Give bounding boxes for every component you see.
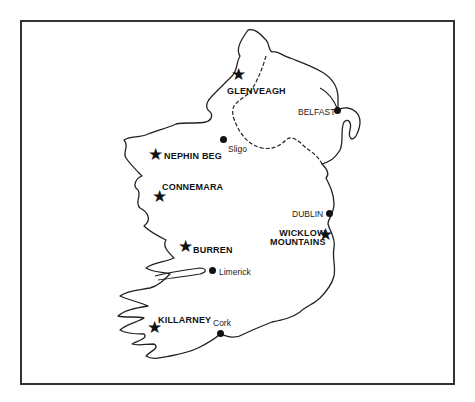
dot-icon-cork bbox=[217, 330, 224, 337]
park-label-burren: BURREN bbox=[193, 246, 233, 255]
ireland-outline bbox=[0, 0, 475, 402]
dot-icon-limerick bbox=[209, 267, 216, 274]
star-icon-wicklow: ★ bbox=[318, 226, 333, 243]
city-label-belfast: BELFAST bbox=[298, 108, 335, 117]
park-label-nephin-beg: NEPHIN BEG bbox=[164, 152, 222, 161]
star-icon-connemara: ★ bbox=[152, 188, 167, 205]
dot-icon-sligo bbox=[220, 136, 227, 143]
star-icon-glenveagh: ★ bbox=[231, 66, 246, 83]
park-label-killarney: KILLARNEY bbox=[158, 316, 211, 325]
star-icon-nephin-beg: ★ bbox=[148, 146, 163, 163]
city-label-sligo: Sligo bbox=[228, 145, 247, 154]
city-label-dublin: DUBLIN bbox=[292, 210, 323, 219]
city-label-limerick: Limerick bbox=[219, 268, 251, 277]
star-icon-killarney: ★ bbox=[147, 319, 162, 336]
dot-icon-dublin bbox=[326, 210, 333, 217]
park-label-connemara: CONNEMARA bbox=[162, 183, 223, 192]
city-label-cork: Cork bbox=[213, 319, 231, 328]
park-label-glenveagh: GLENVEAGH bbox=[227, 87, 286, 96]
star-icon-burren: ★ bbox=[178, 238, 193, 255]
